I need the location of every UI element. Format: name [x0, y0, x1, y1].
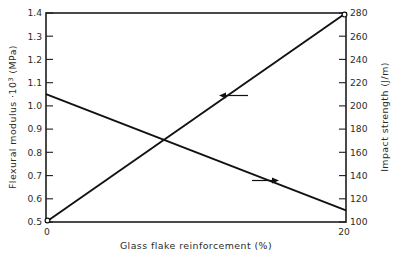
right-tick-label: 180	[350, 123, 368, 134]
series-line-flexural-modulus	[46, 13, 346, 222]
left-axis-tick-labels: 0.5 0.6 0.7 0.8 0.9 1.0 1.1 1.2 1.3 1.4	[27, 7, 42, 227]
left-axis-ticks	[46, 13, 53, 222]
left-tick-label: 1.1	[27, 77, 42, 88]
right-tick-label: 160	[350, 147, 368, 158]
right-tick-label: 120	[350, 193, 368, 204]
left-tick-label: 0.8	[27, 147, 42, 158]
right-tick-label: 100	[350, 216, 368, 227]
right-tick-label: 200	[350, 100, 368, 111]
chart-svg: 0.5 0.6 0.7 0.8 0.9 1.0 1.1 1.2 1.3 1.4 …	[0, 0, 401, 261]
svg-text:Impact strength (J/m): Impact strength (J/m)	[379, 62, 390, 172]
right-tick-label: 280	[350, 7, 368, 18]
series-marker-flexural-start	[45, 218, 50, 223]
left-tick-label: 0.9	[27, 123, 42, 134]
left-tick-label: 0.5	[27, 216, 42, 227]
left-tick-label: 1.2	[27, 54, 42, 65]
right-tick-label: 220	[350, 77, 368, 88]
right-axis-tick-labels: 100 120 140 160 180 200 220 240 260 280	[350, 7, 368, 227]
left-tick-label: 1.3	[27, 31, 42, 42]
left-axis-title: Flexural modulus ·103 (MPa)	[7, 45, 18, 189]
series-line-impact-strength	[46, 94, 346, 210]
chart-figure: 0.5 0.6 0.7 0.8 0.9 1.0 1.1 1.2 1.3 1.4 …	[0, 0, 401, 261]
x-axis-title: Glass flake reinforcement (%)	[120, 240, 272, 251]
left-tick-label: 1.4	[27, 7, 42, 18]
left-axis-title-mult: ·10	[7, 82, 18, 98]
x-axis-tick-labels: 0 20	[44, 226, 350, 237]
x-tick-label: 20	[338, 226, 350, 237]
left-axis-title-main: Flexural modulus	[7, 98, 18, 189]
right-axis-ticks	[339, 13, 346, 222]
right-tick-label: 240	[350, 54, 368, 65]
left-tick-label: 1.0	[27, 100, 42, 111]
right-tick-label: 140	[350, 170, 368, 181]
x-tick-label: 0	[44, 226, 50, 237]
series-marker-flexural-end	[342, 12, 347, 17]
arrowhead-left-icon	[219, 92, 226, 98]
svg-text:Flexural modulus ·103 (MPa): Flexural modulus ·103 (MPa)	[7, 45, 18, 189]
right-tick-label: 260	[350, 31, 368, 42]
left-tick-label: 0.7	[27, 170, 42, 181]
left-tick-label: 0.6	[27, 193, 42, 204]
right-axis-title: Impact strength (J/m)	[379, 62, 390, 172]
left-axis-title-unit: (MPa)	[7, 45, 18, 77]
